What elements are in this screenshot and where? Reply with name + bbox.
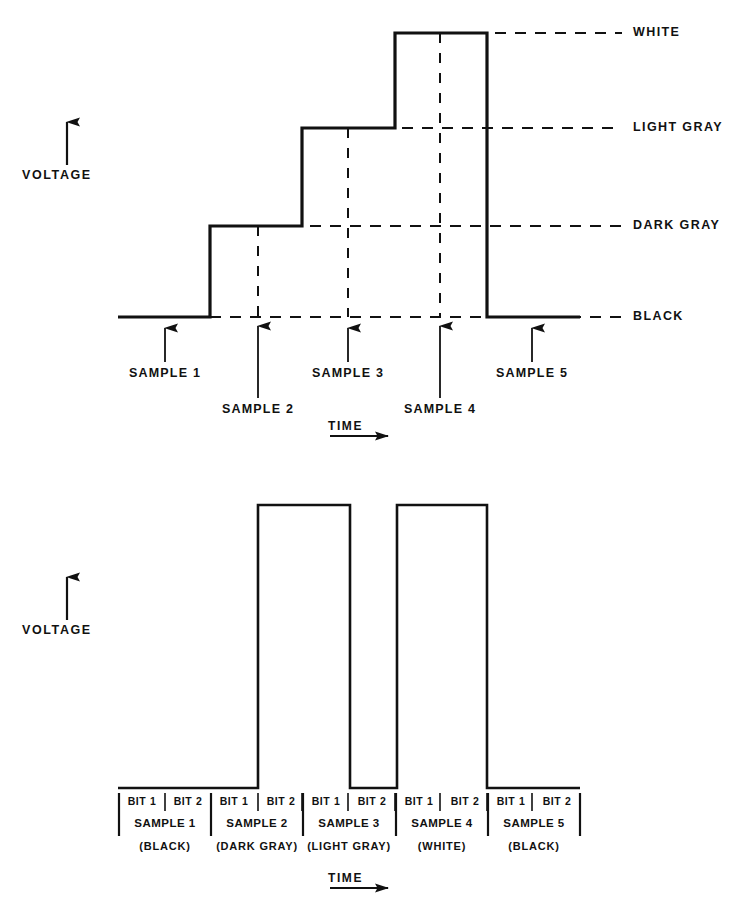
sampling-figure: VOLTAGE WHITE LIGHT GRAY DARK GRAY BLACK… [0,0,752,899]
bottom-color-label-3: (LIGHT GRAY) [307,840,391,852]
bottom-sample-label-4: SAMPLE 4 [411,817,473,829]
top-sample-label-2: SAMPLE 2 [222,402,294,416]
top-time-axis-label: TIME [328,419,363,433]
level-label-white: WHITE [633,25,680,39]
bottom-sample-label-2: SAMPLE 2 [226,817,288,829]
bit-label-s4-b1: BIT 1 [405,795,434,807]
bottom-color-label-1: (BLACK) [139,840,190,852]
bit-label-s3-b1: BIT 1 [312,795,341,807]
sample-drop-lines [258,33,440,317]
bit-label-s2-b2: BIT 2 [267,795,296,807]
level-label-light-gray: LIGHT GRAY [633,120,723,134]
bit-label-s2-b1: BIT 1 [220,795,249,807]
bottom-color-label-2: (DARK GRAY) [216,840,298,852]
top-sample-label-4: SAMPLE 4 [404,402,476,416]
level-reference-lines [210,33,622,317]
bottom-sample-label-1: SAMPLE 1 [134,817,196,829]
bit-label-s1-b2: BIT 2 [174,795,203,807]
diagram-canvas [0,0,752,899]
bottom-color-label-5: (BLACK) [508,840,559,852]
bottom-color-label-4: (WHITE) [418,840,466,852]
bit-label-s5-b1: BIT 1 [497,795,526,807]
bit-label-s4-b2: BIT 2 [451,795,480,807]
bottom-chart-group [67,505,580,888]
bottom-sample-label-3: SAMPLE 3 [318,817,380,829]
top-sample-label-5: SAMPLE 5 [496,366,568,380]
level-label-dark-gray: DARK GRAY [633,218,720,232]
sample-arrows [165,326,532,398]
bit-label-s1-b1: BIT 1 [128,795,157,807]
bottom-time-axis-label: TIME [328,871,363,885]
top-voltage-axis-label: VOLTAGE [22,168,92,182]
pcm-bitstream-waveform [118,505,580,788]
bottom-sample-label-5: SAMPLE 5 [503,817,565,829]
level-label-black: BLACK [633,309,684,323]
top-sample-label-3: SAMPLE 3 [312,366,384,380]
bottom-voltage-axis-label: VOLTAGE [22,623,92,637]
bit-label-s5-b2: BIT 2 [543,795,572,807]
top-sample-label-1: SAMPLE 1 [129,366,201,380]
bit-label-s3-b2: BIT 2 [358,795,387,807]
